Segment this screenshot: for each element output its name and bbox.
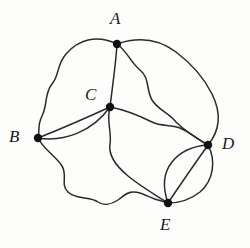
vertex-label-e: E bbox=[160, 216, 170, 233]
edge-layer bbox=[38, 39, 218, 204]
graph-vertex-c bbox=[106, 103, 114, 111]
graph-edge-a-c bbox=[110, 44, 117, 107]
graph-edge-c-d bbox=[110, 107, 208, 145]
graph-edge-d-e bbox=[168, 145, 208, 203]
vertex-label-b: B bbox=[9, 128, 19, 145]
graph-edge-a-d bbox=[117, 40, 218, 145]
vertex-label-d: D bbox=[222, 135, 234, 152]
graph-vertex-d bbox=[204, 141, 212, 149]
graph-edge-b-c bbox=[38, 107, 110, 138]
graph-edge-c-e bbox=[109, 107, 168, 203]
graph-vertex-e bbox=[164, 199, 172, 207]
graph-vertex-b bbox=[34, 134, 42, 142]
graph-canvas bbox=[0, 0, 250, 248]
vertex-label-a: A bbox=[110, 10, 120, 27]
graph-edge-b-e bbox=[38, 138, 168, 204]
graph-figure: ABCDE bbox=[0, 0, 250, 248]
graph-edge-a-d bbox=[117, 44, 208, 145]
graph-vertex-a bbox=[113, 40, 121, 48]
graph-edge-a-b bbox=[38, 39, 117, 138]
vertex-label-c: C bbox=[85, 86, 96, 103]
